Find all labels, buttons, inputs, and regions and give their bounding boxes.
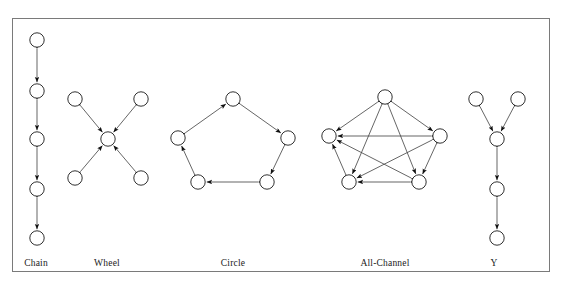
node-a_left	[322, 129, 336, 143]
node-r_bl	[191, 175, 205, 189]
edge-w_tl-w_hub	[81, 106, 103, 132]
edge-w_tr-w_hub	[114, 106, 136, 132]
edge-y_tr-y_mid	[501, 107, 514, 131]
edge-r_left-r_top	[185, 104, 226, 133]
node-y_bot	[490, 231, 504, 245]
edge-a_right-a_br	[423, 144, 437, 174]
network-label-y: Y	[490, 258, 497, 268]
network-wheel-nodes	[68, 92, 148, 185]
node-a_bl	[342, 175, 356, 189]
node-w_tl	[68, 92, 82, 106]
node-c5	[30, 231, 44, 245]
edge-w_br-w_hub	[114, 146, 136, 172]
network-circle-edges	[182, 104, 285, 182]
edge-a_top-a_bl	[352, 105, 381, 174]
network-label-circle: Circle	[221, 258, 245, 268]
node-w_hub	[101, 132, 115, 146]
node-y_low	[490, 182, 504, 196]
node-c3	[30, 132, 44, 146]
edge-a_right-a_bl	[357, 140, 432, 178]
node-c2	[30, 84, 44, 98]
network-diagram-canvas	[0, 0, 568, 288]
node-y_tl	[469, 92, 483, 106]
network-label-wheel: Wheel	[94, 258, 120, 268]
node-y_tr	[511, 92, 525, 106]
edge-r_right-r_br	[271, 146, 284, 174]
edge-a_br-a_left	[337, 140, 411, 178]
network-y-edges	[480, 107, 514, 229]
edge-a_top-a_right	[392, 102, 433, 131]
edge-a_top-a_left	[336, 102, 378, 131]
network-label-all-channel: All-Channel	[360, 258, 409, 268]
node-w_bl	[68, 171, 82, 185]
network-circle-nodes	[171, 92, 295, 189]
node-y_mid	[490, 132, 504, 146]
node-w_tr	[134, 92, 148, 106]
node-r_top	[226, 92, 240, 106]
network-all-channel-edges	[333, 102, 437, 182]
edge-r_top-r_right	[240, 104, 281, 133]
network-label-chain: Chain	[24, 258, 48, 268]
node-r_right	[281, 131, 295, 145]
node-a_top	[378, 90, 392, 104]
node-c4	[30, 182, 44, 196]
edge-y_tl-y_mid	[480, 107, 493, 131]
node-w_br	[134, 171, 148, 185]
node-a_br	[412, 175, 426, 189]
node-c1	[30, 33, 44, 47]
edge-r_bl-r_left	[182, 146, 195, 174]
nodes-layer	[30, 33, 525, 245]
node-r_br	[260, 175, 274, 189]
edge-a_bl-a_left	[333, 144, 346, 174]
node-r_left	[171, 131, 185, 145]
network-all-channel-nodes	[322, 90, 447, 189]
node-a_right	[433, 129, 447, 143]
edge-w_bl-w_hub	[81, 146, 103, 172]
